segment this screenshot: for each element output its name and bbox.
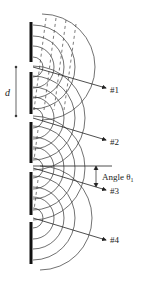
angle-indicator bbox=[94, 166, 98, 187]
label-angle: Angle θ1 bbox=[102, 172, 134, 183]
label-ray-2: #2 bbox=[110, 137, 119, 147]
label-ray-1: #1 bbox=[110, 85, 119, 95]
label-ray-4: #4 bbox=[110, 235, 120, 245]
wavefronts bbox=[33, 14, 95, 270]
diffraction-diagram: d #1 #2 Angle θ1 #3 #4 bbox=[0, 0, 145, 281]
label-d: d bbox=[5, 87, 11, 98]
ray-4 bbox=[33, 218, 106, 240]
spacing-indicator bbox=[15, 66, 17, 117]
ray-3 bbox=[33, 168, 106, 190]
ray-2 bbox=[33, 118, 106, 140]
label-ray-3: #3 bbox=[110, 186, 120, 196]
